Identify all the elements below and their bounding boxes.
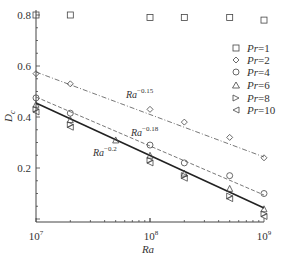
svg-text:Pr=2: Pr=2 — [246, 54, 270, 66]
xtick-label-1e7: 107 — [29, 229, 44, 242]
diamond-marker-icon — [181, 119, 187, 125]
legend-item-pr1: Pr=1 — [233, 42, 270, 54]
ytick-label-0.2: 0.2 — [17, 162, 31, 174]
triangle-right-marker-icon — [233, 95, 239, 101]
diamond-marker-icon — [261, 155, 267, 161]
legend: Pr=1 Pr=2 Pr=4 Pr=6 Pr=8 Pr=10 — [233, 42, 276, 116]
data-markers — [33, 12, 267, 219]
svg-text:Pr=8: Pr=8 — [246, 92, 270, 104]
square-marker-icon — [233, 45, 239, 51]
triangle-left-marker-icon — [233, 107, 239, 113]
square-marker-icon — [147, 15, 153, 21]
diamond-marker-icon — [227, 134, 233, 140]
xtick-label-1e9: 109 — [257, 229, 272, 242]
circle-marker-icon — [227, 173, 233, 179]
circle-marker-icon — [261, 191, 267, 197]
legend-item-pr2: Pr=2 — [233, 54, 270, 66]
circle-marker-icon — [233, 69, 239, 75]
annotation-ra-0.2: Ra−0.2 — [92, 145, 117, 158]
square-marker-icon — [181, 15, 187, 21]
ytick-label-0.8: 0.8 — [17, 9, 31, 21]
xtick-label-1e8: 108 — [144, 229, 159, 242]
ytick-label-0.4: 0.4 — [17, 111, 31, 123]
svg-text:Pr=10: Pr=10 — [246, 104, 276, 116]
ytick-label-0.6: 0.6 — [17, 60, 31, 72]
circle-marker-icon — [67, 110, 73, 116]
legend-item-pr8: Pr=8 — [233, 92, 270, 104]
legend-item-pr4: Pr=4 — [233, 66, 270, 78]
square-marker-icon — [261, 17, 267, 23]
svg-text:Pr=4: Pr=4 — [246, 66, 270, 78]
svg-text:Pr=6: Pr=6 — [246, 79, 270, 91]
x-axis-label: Ra — [141, 243, 155, 255]
square-marker-icon — [227, 15, 233, 21]
svg-text:Pr=1: Pr=1 — [246, 42, 270, 54]
legend-item-pr6: Pr=6 — [233, 79, 271, 91]
x-ticks — [36, 218, 264, 222]
annotation-ra-0.18: Ra−0.18 — [130, 125, 159, 138]
triangle-up-marker-icon — [233, 82, 240, 88]
fit-line-ra-0.18 — [36, 97, 264, 195]
annotation-ra-0.15: Ra−0.15 — [125, 87, 154, 100]
y-ticks — [36, 15, 40, 219]
diamond-marker-icon — [233, 57, 239, 63]
circle-marker-icon — [181, 160, 187, 166]
y-axis-label: Dc — [2, 110, 17, 123]
chart-container: 0.8 0.6 0.4 0.2 Dc 107 108 109 Ra Ra−0.1… — [0, 0, 282, 257]
square-marker-icon — [67, 12, 73, 18]
fit-line-ra-0.15 — [36, 72, 264, 157]
diamond-marker-icon — [147, 106, 153, 112]
legend-item-pr10: Pr=10 — [233, 104, 276, 116]
fit-line-ra-0.2 — [36, 103, 264, 208]
